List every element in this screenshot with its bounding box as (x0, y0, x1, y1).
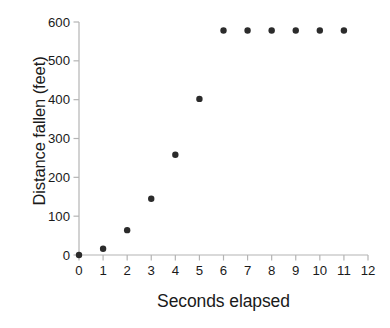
y-tick-label: 300 (48, 131, 70, 146)
data-point-series (76, 27, 347, 258)
data-point (317, 27, 323, 33)
data-point (76, 252, 82, 258)
plot-area: 0100200300400500600 0123456789101112 (0, 0, 390, 328)
y-tick-label: 100 (48, 209, 70, 224)
x-tick-label: 4 (172, 263, 179, 278)
data-point (148, 195, 154, 201)
data-point (124, 227, 130, 233)
data-point (244, 27, 250, 33)
x-tick-marks (79, 255, 368, 261)
x-tick-label: 11 (337, 263, 351, 278)
x-tick-label: 12 (361, 263, 376, 278)
x-tick-label: 8 (268, 263, 275, 278)
scatter-plot-figure: Distance fallen (feet) Seconds elapsed 0… (0, 0, 390, 328)
x-tick-label: 7 (244, 263, 251, 278)
x-tick-label: 5 (196, 263, 203, 278)
x-tick-label: 6 (220, 263, 227, 278)
x-tick-label: 2 (123, 263, 130, 278)
y-tick-label: 500 (48, 53, 70, 68)
data-point (268, 27, 274, 33)
y-tick-label: 400 (48, 92, 70, 107)
x-tick-label: 3 (148, 263, 155, 278)
data-point (293, 27, 299, 33)
x-tick-labels: 0123456789101112 (75, 263, 375, 278)
x-tick-label: 0 (75, 263, 82, 278)
x-tick-label: 9 (292, 263, 299, 278)
data-point (172, 152, 178, 158)
data-point (220, 27, 226, 33)
y-tick-label: 0 (63, 248, 70, 263)
data-point (100, 246, 106, 252)
y-tick-label: 600 (48, 15, 70, 30)
data-point (196, 96, 202, 102)
data-point (341, 27, 347, 33)
x-tick-label: 1 (99, 263, 106, 278)
y-tick-label: 200 (48, 170, 70, 185)
x-tick-label: 10 (312, 263, 327, 278)
y-tick-labels: 0100200300400500600 (48, 15, 70, 263)
y-tick-marks (74, 22, 80, 255)
